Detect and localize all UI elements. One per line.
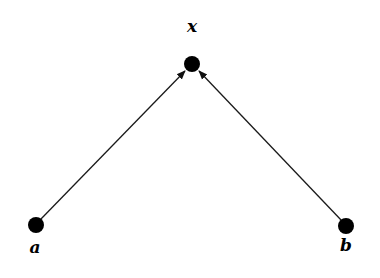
graph-diagram: x a b [0,0,380,278]
node-x-label: x [186,16,198,36]
node-b [338,218,354,234]
node-x [184,56,200,72]
node-a-label: a [29,237,40,257]
edge-a-to-x [40,71,185,220]
edge-b-to-x [199,71,342,221]
node-a [28,217,44,233]
node-b-label: b [340,235,352,255]
